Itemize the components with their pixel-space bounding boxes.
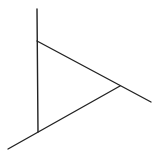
vertical-line (37, 9, 38, 132)
diagram-canvas (0, 0, 162, 159)
upper-diagonal (37, 41, 151, 102)
lower-diagonal (8, 86, 120, 149)
triangle-diagram (0, 0, 162, 159)
